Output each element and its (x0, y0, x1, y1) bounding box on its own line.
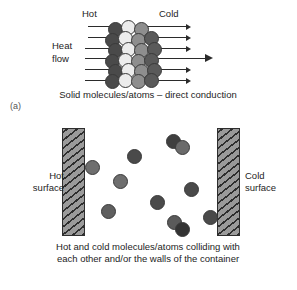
gas-molecule (113, 174, 128, 189)
heat-flow-arrowhead-2 (186, 35, 191, 41)
panel-b-caption-line2: each other and/or the walls of the conta… (20, 253, 276, 265)
heat-flow-arrow-shaft-1 (160, 26, 186, 27)
panel-a-flow-label: flow (52, 53, 69, 64)
cold-surface-label-line1: Cold (245, 170, 297, 181)
heat-conduction-figure: Hot Cold Heat flow Solid molecules/atoms… (0, 0, 297, 290)
heat-flow-arrowhead-4 (205, 54, 213, 62)
gas-molecule (85, 160, 100, 175)
panel-a-solid-conduction: Hot Cold Heat flow Solid molecules/atoms… (0, 0, 297, 112)
gas-molecule (184, 182, 199, 197)
gas-molecule (101, 204, 116, 219)
panel-a-label: (a) (10, 101, 21, 111)
heat-flow-arrowhead-6 (186, 78, 191, 84)
panel-a-cold-label: Cold (159, 8, 179, 19)
panel-b-caption: Hot and cold molecules/atoms colliding w… (20, 241, 276, 265)
heat-flow-arrow-shaft-6 (160, 80, 186, 81)
cold-surface-label-line2: surface (245, 182, 297, 193)
heat-flow-arrow-shaft-4 (160, 58, 205, 59)
heat-flow-arrow-shaft-3 (160, 48, 186, 49)
panel-a-hot-label: Hot (82, 8, 97, 19)
hot-surface-wall (62, 128, 85, 236)
gas-molecule (127, 149, 142, 164)
panel-a-caption: Solid molecules/atoms – direct conductio… (28, 89, 268, 101)
gas-molecule (150, 195, 165, 210)
heat-flow-arrow-shaft-5 (160, 69, 186, 70)
panel-b-caption-line1: Hot and cold molecules/atoms colliding w… (20, 241, 276, 253)
hot-surface-label-line2: surface (8, 182, 64, 193)
gas-molecule (175, 140, 190, 155)
gas-molecule (175, 222, 190, 237)
cold-surface-wall (217, 128, 240, 236)
heat-flow-arrowhead-5 (186, 67, 191, 73)
heat-flow-arrow-shaft-2 (160, 37, 186, 38)
heat-flow-arrowhead-3 (186, 46, 191, 52)
panel-a-heat-label: Heat (52, 40, 72, 51)
hot-surface-label-line1: Hot (8, 170, 64, 181)
lattice-atom (144, 73, 159, 88)
gas-molecule (203, 210, 218, 225)
heat-flow-arrowhead-1 (186, 24, 191, 30)
panel-b-gas-conduction: Hot surface Cold surface Hot and cold mo… (0, 112, 297, 290)
